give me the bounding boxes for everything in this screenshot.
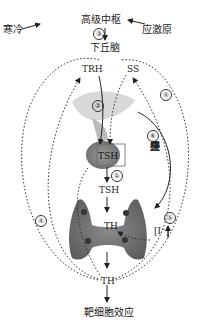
pathway-5-marker: ⑤	[164, 212, 176, 224]
iodine-label: [I⁻]	[154, 225, 169, 237]
th-label: TH	[101, 275, 115, 287]
hypothalamus-label: 下丘脑	[90, 42, 120, 54]
thyroid-th-label: TH	[104, 220, 118, 232]
pathway-3-marker: ③	[93, 28, 105, 40]
pathway-2-marker: ②	[92, 100, 104, 112]
target-cell-effect-label: 靶细胞效应	[84, 307, 134, 319]
tsh-label: TSH	[99, 184, 119, 196]
ss-label: SS	[127, 63, 139, 75]
pathway-1-marker: ①	[111, 170, 123, 182]
pituitary-tsh-label: TSH	[98, 150, 118, 162]
stress-label: 应激原	[142, 24, 172, 36]
higher-center-label: 高级中枢	[81, 14, 121, 26]
pathway-4-top-marker: ④	[160, 89, 172, 101]
pathway-4-left-marker: ④	[35, 215, 47, 227]
hypothalamus-image	[72, 91, 135, 142]
cold-label: 寒冷	[3, 24, 23, 36]
trh-label: TRH	[82, 63, 103, 75]
